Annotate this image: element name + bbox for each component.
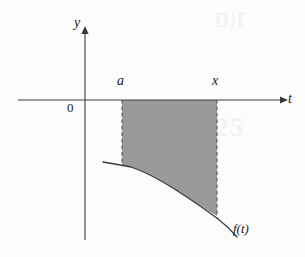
- curve-label-ft: f(t): [233, 222, 249, 235]
- t-axis-label: t: [288, 92, 292, 106]
- upper-bound-label-x: x: [212, 74, 218, 88]
- y-axis-arrowhead: [81, 26, 88, 34]
- shaded-integral-region: [122, 100, 217, 216]
- integral-area-figure: Dif s 25 y t 0 a x f(t): [0, 0, 305, 257]
- t-axis-arrowhead: [280, 96, 288, 103]
- figure-canvas: [0, 0, 305, 257]
- lower-bound-label-a: a: [117, 74, 124, 88]
- y-axis-label: y: [74, 16, 80, 30]
- origin-label: 0: [67, 101, 74, 114]
